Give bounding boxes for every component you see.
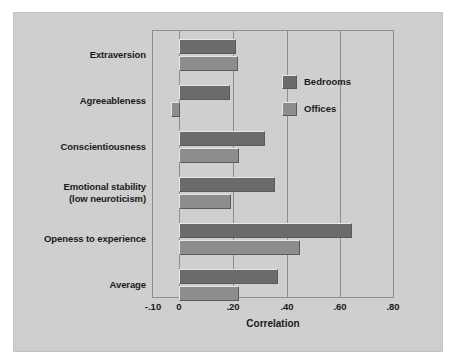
xtick-label-0.60: .60	[333, 301, 346, 312]
category-label-extraversion: Extraversion	[90, 49, 146, 61]
category-label-conscientiousness: Conscientiousness	[61, 141, 146, 153]
legend-swatch-bedrooms	[282, 75, 297, 89]
legend-entry-offices: Offices	[282, 98, 351, 119]
category-label-average: Average	[110, 279, 146, 291]
xtick-label--0.10: -.10	[145, 301, 161, 312]
bar-conscientiousness-offices	[179, 148, 239, 163]
xtick-label-0.40: .40	[280, 301, 293, 312]
bar-openess-to-experience-offices	[179, 240, 300, 255]
category-label-openess-to-experience: Openess to experience	[44, 233, 146, 245]
bar-agreeableness-offices	[171, 102, 180, 117]
legend-label-bedrooms: Bedrooms	[304, 76, 351, 87]
bar-conscientiousness-bedrooms	[179, 131, 265, 146]
legend-entry-bedrooms: Bedrooms	[282, 71, 351, 92]
bar-extraversion-offices	[179, 56, 238, 71]
xtick-label-0.20: .20	[226, 301, 239, 312]
bar-emotional-stability-offices	[179, 194, 231, 209]
xtick-label-0: 0	[176, 301, 181, 312]
bar-average-bedrooms	[179, 269, 278, 284]
bars-layer	[153, 31, 393, 297]
bar-agreeableness-bedrooms	[179, 85, 230, 100]
bar-extraversion-bedrooms	[179, 39, 236, 54]
category-label-emotional-stability: Emotional stability (low neuroticism)	[63, 181, 146, 204]
x-axis-title: Correlation	[152, 318, 394, 329]
legend-label-offices: Offices	[304, 103, 336, 114]
chart-figure-panel: Extraversion Agreeableness Conscientious…	[14, 13, 442, 351]
plot-area	[152, 30, 394, 298]
category-label-agreeableness: Agreeableness	[80, 95, 146, 107]
bar-emotional-stability-bedrooms	[179, 177, 275, 192]
bar-average-offices	[179, 286, 239, 301]
chart-legend: Bedrooms Offices	[282, 71, 351, 125]
xtick-label-0.80: .80	[386, 301, 399, 312]
bar-openess-to-experience-bedrooms	[179, 223, 352, 238]
legend-swatch-offices	[282, 102, 297, 116]
